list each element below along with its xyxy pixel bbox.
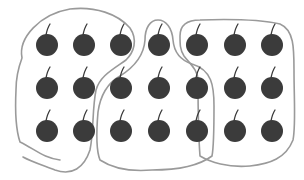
cherry-stem [46, 24, 50, 35]
cherry [148, 24, 170, 56]
cherry-stem [83, 24, 87, 35]
cherry-body [148, 34, 170, 56]
cherry-body [110, 120, 132, 142]
cherry-stem [46, 110, 50, 121]
cherry-body [73, 120, 95, 142]
cherry-stem [120, 24, 124, 35]
cherry-body [36, 77, 58, 99]
cherry-body [224, 77, 246, 99]
cherry [261, 24, 283, 56]
cherry-stem [158, 24, 162, 35]
cherry-body [110, 34, 132, 56]
cherry-stem [196, 24, 200, 35]
cherry-stem [271, 67, 275, 78]
cherry [186, 24, 208, 56]
cherry [36, 110, 58, 142]
cherry-body [73, 34, 95, 56]
cherry-body [36, 34, 58, 56]
cherry-stem [234, 67, 238, 78]
cherry [224, 24, 246, 56]
cherry-grouping-diagram [0, 0, 304, 180]
cherry [261, 110, 283, 142]
cherry [224, 110, 246, 142]
cherry [73, 110, 95, 142]
cherry-body [148, 120, 170, 142]
cherry-body [36, 120, 58, 142]
cherry-body [224, 34, 246, 56]
cherry-body [186, 34, 208, 56]
cherry-stem [158, 110, 162, 121]
cherry-stem [271, 110, 275, 121]
cherry [110, 24, 132, 56]
cherry-body [186, 77, 208, 99]
cherry [36, 67, 58, 99]
cherry-body [73, 77, 95, 99]
cherry-stem [234, 24, 238, 35]
cherry-stem [83, 110, 87, 121]
cherry-stem [158, 67, 162, 78]
cherry [36, 24, 58, 56]
cherry [261, 67, 283, 99]
cherry [73, 67, 95, 99]
cherry [186, 110, 208, 142]
cherry-body [148, 77, 170, 99]
cherry [110, 67, 132, 99]
cherry-body [261, 120, 283, 142]
cherry [73, 24, 95, 56]
cherry-grid [36, 24, 283, 142]
cherry-stem [234, 110, 238, 121]
cherry-stem [271, 24, 275, 35]
cherry-stem [120, 110, 124, 121]
cherry [224, 67, 246, 99]
cherry [110, 110, 132, 142]
cherry-body [261, 34, 283, 56]
cherry-stem [120, 67, 124, 78]
cherry [148, 67, 170, 99]
cherry-body [261, 77, 283, 99]
cherry-stem [83, 67, 87, 78]
cherry-body [224, 120, 246, 142]
cherry [148, 110, 170, 142]
cherry-body [110, 77, 132, 99]
cherry-body [186, 120, 208, 142]
cherry-stem [46, 67, 50, 78]
